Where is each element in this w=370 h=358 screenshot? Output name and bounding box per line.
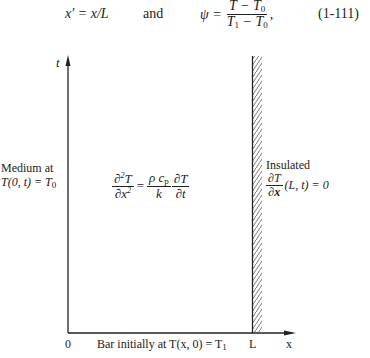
heat-equation: ∂2T ∂x2 = ρ cp k ∂T ∂t <box>112 171 189 201</box>
L-label: L <box>249 337 256 352</box>
flux-derivative: ∂T ∂x <box>266 172 283 198</box>
x-axis-arrow-icon <box>284 331 296 336</box>
second-derivative: ∂2T ∂x2 <box>112 172 134 200</box>
t-axis-label: t <box>56 55 60 71</box>
right-boundary-condition: Insulated ∂T ∂x (L, t) = 0 <box>266 158 329 198</box>
t-axis-arrow-icon <box>66 55 71 66</box>
coefficient: ρ cp k <box>147 171 171 201</box>
x-axis-label: x <box>286 337 292 352</box>
left-boundary-condition: Medium at T(0, t) = T0 <box>1 161 56 192</box>
origin-label: 0 <box>65 337 71 352</box>
insulated-wall-hatching <box>253 56 262 333</box>
time-derivative: ∂T ∂t <box>172 172 190 200</box>
initial-condition-caption: Bar initially at T(x, 0) = T1 <box>97 337 227 354</box>
